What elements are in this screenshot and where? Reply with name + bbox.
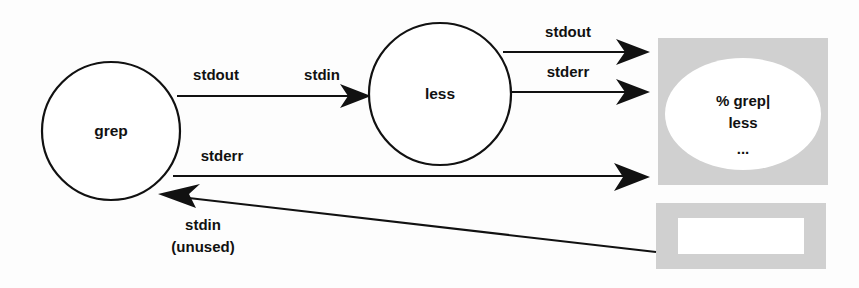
terminal-line-1: % grep| — [716, 92, 770, 109]
arrowhead-grep-stdin — [158, 184, 200, 208]
node-grep-label: grep — [94, 122, 128, 139]
label-less-stdout: stdout — [545, 23, 591, 40]
diagram-canvas: % grep| less ... stdout stdin stdout std… — [0, 0, 859, 288]
label-less-stderr: stderr — [547, 63, 590, 80]
label-less-stdin: stdin — [304, 66, 340, 83]
pipeline-diagram: % grep| less ... stdout stdin stdout std… — [0, 0, 859, 288]
label-grep-stdin-note: (unused) — [171, 238, 234, 255]
label-grep-stdin: stdin — [185, 216, 221, 233]
label-grep-stderr: stderr — [201, 147, 244, 164]
label-grep-stdout: stdout — [193, 66, 239, 83]
terminal-line-3: ... — [737, 140, 750, 157]
terminal-line-2: less — [728, 114, 757, 131]
node-less-label: less — [425, 85, 455, 102]
keyboard-keys — [678, 218, 804, 254]
edge-keyboard-stdin-to-grep — [180, 197, 656, 252]
